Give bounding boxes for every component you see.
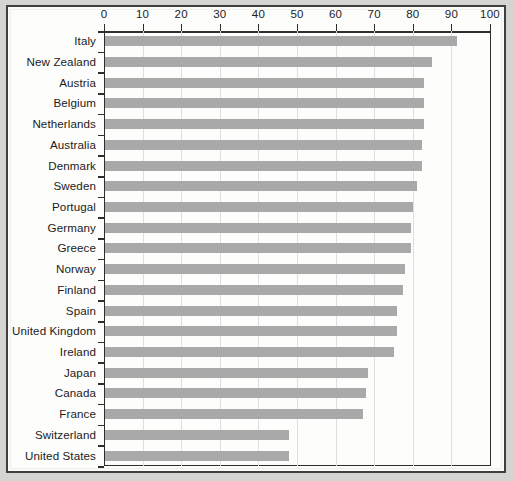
- category-label: Switzerland: [35, 428, 96, 441]
- y-axis-tick: [98, 466, 104, 468]
- bar-row: Netherlands: [0, 114, 514, 135]
- bar-row: Ireland: [0, 342, 514, 363]
- bar-row: Austria: [0, 72, 514, 93]
- x-axis-tick: [374, 24, 375, 31]
- bar: [105, 264, 405, 274]
- x-axis-tick: [413, 24, 414, 31]
- bar: [105, 430, 289, 440]
- bar-row: Portugal: [0, 197, 514, 218]
- x-axis-tick: [490, 24, 491, 31]
- bar-row: Australia: [0, 135, 514, 156]
- category-label: Greece: [57, 242, 96, 255]
- bar: [105, 57, 432, 67]
- category-label: Austria: [59, 76, 96, 89]
- x-axis-tick-label: 70: [368, 8, 381, 20]
- category-label: Japan: [64, 366, 96, 379]
- x-axis-tick-label: 20: [175, 8, 188, 20]
- bar: [105, 243, 411, 253]
- bar: [105, 78, 424, 88]
- bar: [105, 119, 424, 129]
- x-axis-tick: [336, 24, 337, 31]
- bar: [105, 306, 397, 316]
- chart-page: 0102030405060708090100 ItalyNew ZealandA…: [0, 0, 514, 481]
- bar: [105, 409, 363, 419]
- x-axis-tick-label: 60: [329, 8, 342, 20]
- bar-row: Germany: [0, 217, 514, 238]
- x-axis-tick-label: 90: [445, 8, 458, 20]
- bar-chart: 0102030405060708090100 ItalyNew ZealandA…: [0, 0, 514, 481]
- bar: [105, 98, 424, 108]
- category-label: Ireland: [60, 345, 96, 358]
- category-label: France: [59, 407, 96, 420]
- x-axis-tick: [297, 24, 298, 31]
- bar-row: Belgium: [0, 93, 514, 114]
- x-axis-tick-label: 100: [480, 8, 500, 20]
- x-axis-tick: [451, 24, 452, 31]
- category-label: Denmark: [48, 159, 96, 172]
- bar-row: Spain: [0, 300, 514, 321]
- x-axis-tick: [258, 24, 259, 31]
- category-label: Sweden: [54, 180, 97, 193]
- bar-row: United Kingdom: [0, 321, 514, 342]
- bar-rows: ItalyNew ZealandAustriaBelgiumNetherland…: [0, 31, 514, 466]
- category-label: United Kingdom: [12, 325, 96, 338]
- bar: [105, 388, 366, 398]
- x-axis-tick-label: 50: [290, 8, 303, 20]
- bar: [105, 181, 417, 191]
- x-axis-tick-label: 80: [406, 8, 419, 20]
- x-axis-tick: [220, 24, 221, 31]
- x-axis-tick: [143, 24, 144, 31]
- category-label: Spain: [66, 304, 96, 317]
- x-axis-tick-label: 30: [213, 8, 226, 20]
- bar: [105, 326, 397, 336]
- bar: [105, 161, 422, 171]
- bar: [105, 36, 457, 46]
- bar-row: France: [0, 404, 514, 425]
- bar: [105, 223, 411, 233]
- bar-row: Switzerland: [0, 425, 514, 446]
- bar-row: Sweden: [0, 176, 514, 197]
- category-label: Norway: [56, 262, 96, 275]
- category-label: Netherlands: [32, 117, 96, 130]
- x-axis-tick: [104, 24, 105, 31]
- x-axis-tick: [181, 24, 182, 31]
- bar-row: Canada: [0, 383, 514, 404]
- x-axis-tick-label: 40: [252, 8, 265, 20]
- bar: [105, 140, 422, 150]
- category-label: Italy: [74, 35, 96, 48]
- bar: [105, 368, 368, 378]
- category-label: Belgium: [53, 97, 96, 110]
- bar: [105, 285, 403, 295]
- bar-row: Greece: [0, 238, 514, 259]
- x-axis-tick-label: 10: [136, 8, 149, 20]
- category-label: Germany: [48, 221, 96, 234]
- category-label: New Zealand: [27, 55, 96, 68]
- category-label: Portugal: [52, 200, 96, 213]
- bar-row: New Zealand: [0, 52, 514, 73]
- bar-row: Denmark: [0, 155, 514, 176]
- bar-row: Japan: [0, 362, 514, 383]
- bar-row: Finland: [0, 280, 514, 301]
- x-axis-tick-label: 0: [101, 8, 108, 20]
- bar-row: United States: [0, 445, 514, 466]
- category-label: United States: [25, 449, 96, 462]
- category-label: Canada: [55, 387, 96, 400]
- bar: [105, 202, 413, 212]
- bar: [105, 451, 289, 461]
- bar-row: Norway: [0, 259, 514, 280]
- bar: [105, 347, 394, 357]
- category-label: Finland: [57, 283, 96, 296]
- category-label: Australia: [50, 138, 96, 151]
- bar-row: Italy: [0, 31, 514, 52]
